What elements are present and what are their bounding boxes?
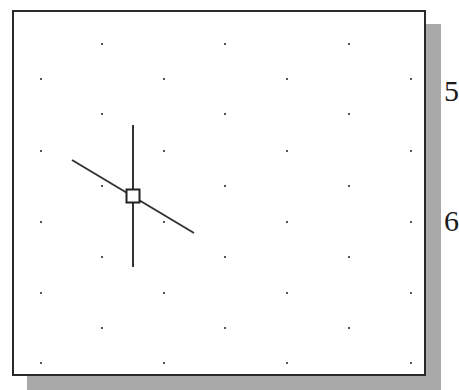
- clipped-text-fragment: 5: [444, 76, 459, 106]
- clipped-text-fragment: 6: [444, 206, 459, 236]
- drawing-area[interactable]: [12, 10, 426, 376]
